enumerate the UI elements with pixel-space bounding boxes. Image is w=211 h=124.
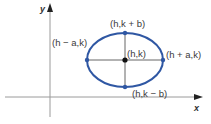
covertex-bottom-label: (h,k − b) <box>132 88 167 99</box>
vertex-right-label: (h + a,k) <box>166 49 201 60</box>
center-label: (h,k) <box>127 48 146 59</box>
y-axis-label: y <box>39 4 46 14</box>
covertex-top-point <box>123 31 127 35</box>
y-axis-arrow-icon <box>47 3 53 12</box>
x-axis-label: x <box>193 103 200 113</box>
covertex-top-label: (h,k + b) <box>110 18 145 29</box>
covertex-bottom-point <box>123 85 127 89</box>
vertex-right-point <box>161 58 165 62</box>
ellipse-diagram: y x (h,k + b) (h − a,k) (h,k) (h + a,k) … <box>0 0 211 124</box>
vertex-left-label: (h − a,k) <box>52 37 87 48</box>
vertex-left-point <box>85 58 89 62</box>
x-axis-arrow-icon <box>194 94 203 100</box>
